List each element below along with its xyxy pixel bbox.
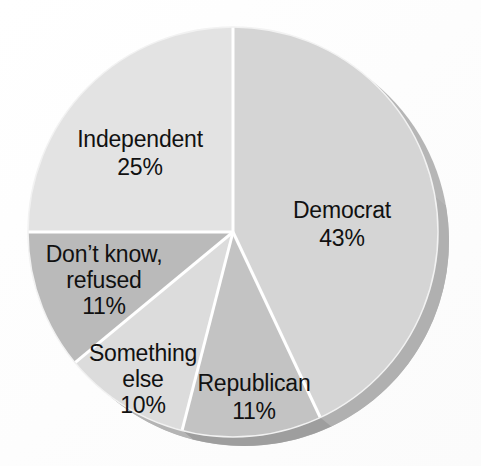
slice-label-something-else: Something <box>89 340 197 366</box>
slice-label-republican: Republican <box>197 370 310 396</box>
slice-label-independent: Independent <box>77 126 204 152</box>
slice-value-something-else: 10% <box>120 392 165 418</box>
slice-label-something-else-line2: else <box>122 366 163 392</box>
slice-value-don-t-know-refused: 11% <box>82 293 126 319</box>
slice-label-don-t-know-refused: Don’t know, <box>46 241 163 267</box>
slice-value-republican: 11% <box>232 398 276 424</box>
pie-chart-svg: Democrat43%Republican11%Somethingelse10%… <box>0 0 481 466</box>
slice-label-don-t-know-refused-line2: refused <box>66 267 141 293</box>
slice-value-independent: 25% <box>117 154 162 180</box>
slice-label-democrat: Democrat <box>293 197 392 223</box>
slice-value-democrat: 43% <box>319 225 364 251</box>
pie-chart-figure: Democrat43%Republican11%Somethingelse10%… <box>0 0 481 466</box>
